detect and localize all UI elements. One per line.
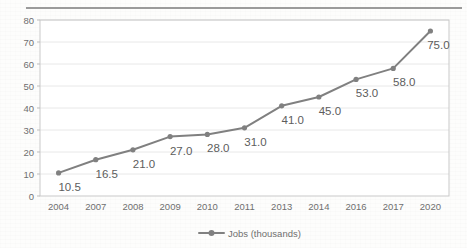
data-point-marker [391,66,396,71]
data-point-label: 31.0 [244,136,266,148]
line-chart: 01020304050607080 2004200720082009201020… [0,0,467,248]
y-axis-tick-label: 20 [23,147,34,158]
y-axis-tick-label: 0 [29,191,34,202]
x-axis-category-label: 2017 [383,201,404,212]
y-axis-tick-label: 60 [23,59,34,70]
legend: Jobs (thousands) [199,228,301,239]
y-axis-tick-label: 10 [23,169,34,180]
y-axis-tick-label: 40 [23,103,34,114]
data-point-label: 75.0 [427,39,449,51]
chart-page: 01020304050607080 2004200720082009201020… [0,0,467,248]
legend-marker-icon [209,230,215,236]
x-axis-category-label: 2014 [308,201,329,212]
data-point-label: 27.0 [170,145,192,157]
data-point-label: 41.0 [281,114,303,126]
x-axis-category-label: 2013 [271,201,292,212]
x-axis-category-labels: 2004200720082009201020112013201420162017… [48,201,441,212]
y-axis-tick-label: 70 [23,37,34,48]
data-point-label: 58.0 [393,76,415,88]
x-axis-category-label: 2008 [122,201,143,212]
y-axis-tick-label: 80 [23,15,34,26]
x-axis-category-label: 2007 [85,201,106,212]
x-axis-category-label: 2020 [420,201,441,212]
y-axis-tick-label: 50 [23,81,34,92]
y-axis-tick-labels: 01020304050607080 [23,15,40,202]
data-point-label: 10.5 [58,181,80,193]
data-point-marker [205,132,210,137]
data-point-label: 28.0 [207,142,229,154]
data-point-label: 16.5 [96,168,118,180]
data-point-marker [428,28,433,33]
x-axis-category-label: 2010 [197,201,218,212]
x-axis-category-label: 2016 [345,201,366,212]
data-point-marker [279,103,284,108]
chart-canvas: 01020304050607080 2004200720082009201020… [0,0,467,248]
x-axis-category-label: 2004 [48,201,69,212]
x-axis-category-label: 2009 [160,201,181,212]
x-axis-category-label: 2011 [234,201,254,212]
data-point-marker [168,134,173,139]
data-point-label: 45.0 [319,105,341,117]
legend-label-jobs: Jobs (thousands) [228,228,301,239]
data-point-label: 21.0 [133,158,155,170]
data-point-marker [316,94,321,99]
data-point-marker [353,77,358,82]
data-point-marker [56,170,61,175]
data-point-label: 53.0 [356,87,378,99]
y-axis-tick-label: 30 [23,125,34,136]
data-point-marker [130,147,135,152]
data-point-marker [93,157,98,162]
data-point-marker [242,125,247,130]
